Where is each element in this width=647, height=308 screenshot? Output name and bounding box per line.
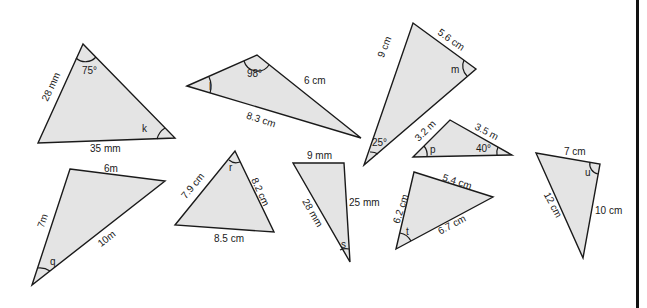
angle-label: p [430,145,436,155]
angle-label: m [451,65,459,75]
side-label: 6 cm [304,76,326,86]
angle-label: r [229,163,232,173]
side-label: 7 cm [564,147,586,157]
side-label: 8.5 cm [214,234,244,244]
page-border-line [636,0,639,308]
angle-label: u [585,168,591,178]
angle-label: s [341,240,346,250]
side-label: 25 mm [349,198,380,208]
side-label: 6m [104,164,118,174]
angle-label: 40° [476,144,491,154]
angle-label: t [406,227,409,237]
side-label: 10 cm [595,206,622,216]
triangle-t [396,172,493,249]
angle-label: l [209,82,211,92]
angle-label: 98° [247,69,262,79]
triangle-k [38,44,175,143]
side-label: 35 mm [90,144,121,154]
side-label: 9 mm [307,151,332,161]
angle-label: k [142,124,147,134]
angle-label: 25° [372,138,387,148]
angle-label: 75° [82,66,97,76]
angle-label: q [50,257,56,267]
triangle-q [32,169,165,285]
